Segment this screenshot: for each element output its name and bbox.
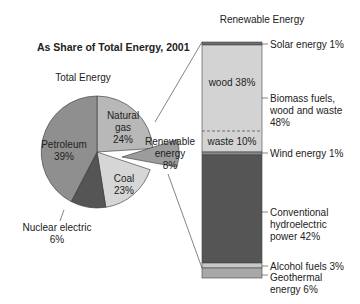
label-solar: Solar energy 1% (270, 39, 344, 50)
label-geothermal-2: energy 6% (270, 284, 318, 295)
label-hydro: Conventional (270, 207, 328, 218)
label-wind: Wind energy 1% (270, 148, 343, 159)
label-renewable: Renewable (145, 136, 195, 147)
label-wood: wood 38% (208, 77, 256, 88)
label-geothermal: Geothermal (270, 272, 322, 283)
label-petroleum-pct: 39% (54, 151, 74, 162)
label-renewable-2: energy (155, 148, 186, 159)
bar-segment-solar (202, 42, 262, 45)
label-biomass: Biomass fuels, (270, 93, 335, 104)
label-natural-gas-pct: 24% (113, 134, 133, 145)
bar-segment-alcohol (202, 263, 262, 268)
pie-title: Total Energy (55, 72, 111, 83)
label-nuclear-pct: 6% (50, 234, 65, 245)
label-renewable-pct: 8% (163, 160, 178, 171)
bar-title: Renewable Energy (220, 14, 305, 25)
bar-segment-wind (202, 152, 262, 155)
chart-title: As Share of Total Energy, 2001 (37, 41, 190, 53)
label-alcohol: Alcohol fuels 3% (270, 261, 344, 272)
label-biomass-2: wood and waste (269, 105, 343, 116)
bar-segment-geothermal (202, 268, 262, 278)
label-biomass-3: 48% (270, 117, 290, 128)
label-waste: waste 10% (207, 136, 257, 147)
nuclear-leader-line (60, 210, 64, 221)
label-nuclear: Nuclear electric (23, 222, 92, 233)
chart-canvas: As Share of Total Energy, 2001 Total Ene… (0, 0, 360, 304)
label-natural-gas-2: gas (115, 122, 131, 133)
label-hydro-3: power 42% (270, 231, 320, 242)
connector-top (155, 42, 202, 122)
bar-ticks (262, 44, 268, 275)
label-natural-gas: Natural (107, 110, 139, 121)
label-petroleum: Petroleum (41, 139, 87, 150)
label-hydro-2: hydroelectric (270, 219, 327, 230)
bar-labels: Solar energy 1% Biomass fuels, wood and … (269, 39, 344, 295)
connector-bottom (168, 174, 202, 268)
bar-segment-hydro (202, 155, 262, 263)
label-coal-pct: 23% (114, 185, 134, 196)
label-coal: Coal (114, 173, 135, 184)
